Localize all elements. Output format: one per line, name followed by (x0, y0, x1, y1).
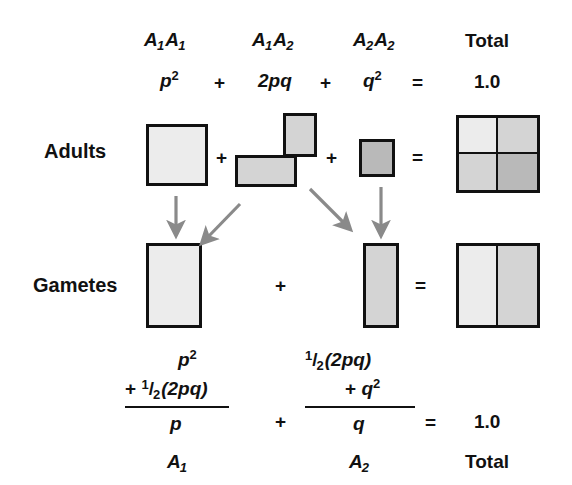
right-allele-A2: A2 (349, 452, 370, 471)
adults-total-grid (456, 115, 540, 193)
adults-equals: = (412, 148, 423, 167)
row-label-gametes: Gametes (33, 275, 118, 295)
gametes-total-box (456, 243, 540, 328)
gametes-shape-p (146, 243, 202, 328)
header-total-label: Total (465, 31, 509, 50)
gametes-total-cell-q (498, 246, 537, 325)
gametes-total-cell-p (459, 246, 498, 325)
frequency-q-squared: q2 (363, 71, 382, 90)
frequency-plus-1: + (214, 73, 225, 92)
left-allele-A1: A1 (167, 452, 188, 471)
bottom-middle-plus: + (275, 412, 286, 431)
frequency-two-pq: 2pq (258, 71, 292, 90)
frequency-plus-2: + (320, 73, 331, 92)
right-fraction-denominator: q (353, 414, 365, 433)
adults-plus-2: + (326, 148, 337, 167)
frequency-p-squared: p2 (160, 71, 179, 90)
genotype-label-A2A2: A2A2 (353, 30, 396, 49)
right-fraction-bar (305, 406, 415, 408)
adults-total-cell-pq-bottom (459, 154, 498, 190)
gametes-equals: = (415, 276, 426, 295)
row-label-adults: Adults (44, 141, 106, 161)
left-fraction-numerator-line1: p2 (178, 350, 197, 369)
gametes-shape-q (363, 243, 399, 328)
adults-shape-p-squared (146, 124, 208, 186)
arrow-2pq-to-q (310, 189, 345, 224)
adults-total-cell-q2 (498, 154, 537, 190)
gametes-plus-1: + (275, 276, 286, 295)
right-fraction-numerator-line1: 1/2(2pq) (305, 350, 371, 369)
left-fraction-bar (125, 406, 229, 408)
bottom-total-label: Total (465, 452, 509, 471)
genotype-label-A1A2: A1A2 (252, 30, 295, 49)
genotype-label-A1A1: A1A1 (144, 30, 187, 49)
left-fraction-denominator: p (170, 414, 182, 433)
adults-total-cell-pq-top (498, 118, 537, 154)
adults-shape-2pq-upper (283, 113, 317, 157)
adults-total-cell-p2 (459, 118, 498, 154)
adults-shape-2pq-lower (235, 155, 297, 187)
frequency-total-value: 1.0 (474, 72, 500, 91)
right-fraction-numerator-line2: + q2 (345, 379, 380, 398)
bottom-total-value: 1.0 (474, 412, 500, 431)
adults-shape-q-squared (359, 139, 395, 177)
frequency-equals: = (412, 73, 423, 92)
bottom-equals: = (425, 413, 436, 432)
arrow-2pq-to-p (207, 204, 240, 238)
adults-plus-1: + (216, 148, 227, 167)
left-fraction-numerator-line2: + 1/2(2pq) (125, 379, 208, 398)
diagram-canvas: A1A1 A1A2 A2A2 Total p2 + 2pq + q2 = 1.0… (0, 0, 572, 485)
